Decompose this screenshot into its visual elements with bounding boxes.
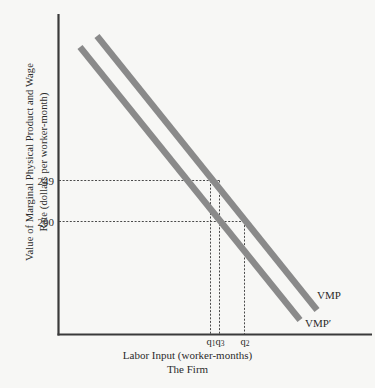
y-axis-title-text: Value of Marginal Physical Product and W…	[23, 63, 51, 261]
figure-subtitle: The Firm	[0, 362, 375, 376]
economics-figure: Value of Marginal Physical Product and W…	[0, 0, 375, 388]
curve-label-vmp: VMP	[317, 289, 341, 301]
y-tick-200: 200	[20, 216, 54, 228]
curve-label-vmp-prime: VMP′	[305, 317, 331, 329]
curve-vmp-prime	[80, 47, 300, 320]
curve-vmp	[97, 36, 317, 310]
x-axis-title: Labor Input (worker-months)	[0, 348, 375, 362]
y-tick-249: 249	[20, 175, 54, 187]
y-axis-title: Value of Marginal Physical Product and W…	[14, 12, 60, 312]
